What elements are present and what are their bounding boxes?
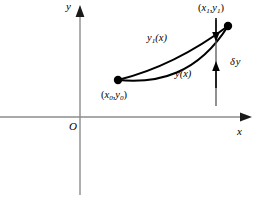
x-axis-arrowhead <box>240 112 252 121</box>
end-point-dot <box>224 22 232 30</box>
lower-curve-label-argument: (x) <box>180 68 192 79</box>
variation-diagram-figure: y x O (x0,y0) (x1,y1) y1(x) y(x) δ y <box>0 0 263 206</box>
lower-curve-path <box>118 26 228 81</box>
y-axis-label: y <box>66 1 71 12</box>
end-label-close-paren: ) <box>221 2 225 13</box>
upper-curve-label: y1(x) <box>147 33 167 45</box>
x-axis-label: x <box>237 126 242 137</box>
diagram-canvas <box>0 0 263 206</box>
start-point-label: (x0,y0) <box>101 90 127 102</box>
curves-group <box>118 26 228 81</box>
origin-label: O <box>69 121 77 132</box>
variation-delta-y-label: δ y <box>230 57 240 68</box>
variation-annotation-group <box>212 18 220 106</box>
start-label-close-paren: ) <box>124 89 128 100</box>
end-point-label: (x1,y1) <box>198 3 224 15</box>
upper-curve-path <box>118 26 228 80</box>
delta-variable: y <box>236 56 241 67</box>
delta-symbol: δ <box>230 56 235 67</box>
variation-bottom-arrowhead <box>212 61 220 71</box>
lower-curve-label: y(x) <box>175 69 191 80</box>
y-axis-arrowhead <box>76 5 85 17</box>
start-point-dot <box>114 76 122 84</box>
upper-curve-label-argument: (x) <box>155 32 167 43</box>
